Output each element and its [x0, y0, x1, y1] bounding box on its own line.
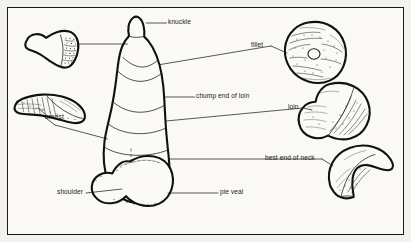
- label-fillet: fillet: [251, 42, 263, 49]
- label-knuckle: knuckle: [168, 19, 191, 26]
- label-breast: breast: [45, 114, 64, 121]
- fillet-bone: [308, 49, 320, 59]
- label-chump-end-of-loin: chump end of loin: [196, 93, 249, 100]
- veal-cuts-figure: knuckle fillet chump end of loin loin br…: [0, 0, 411, 242]
- fillet-cut: [285, 22, 346, 83]
- label-best-end-of-neck: best end of neck: [265, 155, 315, 162]
- label-loin: loin: [288, 104, 299, 111]
- label-pie-veal: pie veal: [220, 189, 243, 196]
- diagram-canvas: [0, 0, 411, 242]
- label-shoulder: shoulder: [57, 189, 83, 196]
